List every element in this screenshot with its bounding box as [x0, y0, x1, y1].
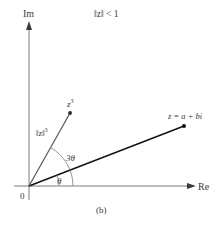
real-axis-arrowhead-icon: [187, 183, 196, 189]
modulus-cubed-base: ‖z‖: [36, 128, 45, 138]
angle-label-three-theta: 3θ: [65, 153, 76, 163]
origin-label: 0: [20, 191, 25, 201]
point-z-cubed: [68, 111, 72, 115]
angle-label-theta: θ: [57, 176, 62, 186]
diagram-title: ‖z‖ < 1: [94, 9, 119, 19]
point-z: [182, 124, 186, 128]
point-z-cubed-label: z3: [66, 98, 74, 109]
imaginary-axis-arrowhead-icon: [26, 21, 32, 30]
modulus-cubed-label: ‖z‖3: [36, 127, 48, 138]
vector-z-cubed: [29, 113, 70, 186]
point-z-label: z = a + bi: [167, 111, 203, 121]
complex-plane-diagram: Im Re 0 ‖z‖ < 1 z = a + bi z3 ‖z‖3 3θ θ …: [0, 0, 221, 228]
vector-z: [29, 126, 184, 186]
imaginary-axis-label: Im: [23, 8, 34, 19]
figure-caption: (b): [96, 205, 107, 215]
real-axis-label: Re: [198, 181, 210, 192]
point-z-cubed-label-sup: 3: [71, 98, 74, 104]
modulus-cubed-sup: 3: [45, 127, 48, 133]
